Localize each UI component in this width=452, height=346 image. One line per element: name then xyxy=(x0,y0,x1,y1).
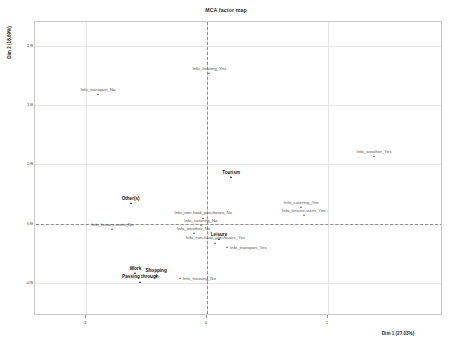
y-axis-tick-mark xyxy=(30,222,33,223)
data-point[interactable] xyxy=(97,93,99,95)
plot-panel: Info_heating_YesInfo_transport_NoInfo_we… xyxy=(34,21,442,315)
data-point-label: Info_weather_No xyxy=(177,226,210,231)
x-axis-tick-mark xyxy=(327,315,328,318)
y-axis-tick-mark xyxy=(30,281,33,282)
data-point[interactable] xyxy=(303,214,305,216)
data-point[interactable] xyxy=(214,242,216,244)
x-axis-tick-mark xyxy=(85,315,86,318)
data-point-label: Info_non-food_purchases_No xyxy=(174,210,232,215)
x-axis-label: Dim 1 (27.03%) xyxy=(352,331,444,336)
y-axis-tick-mark xyxy=(30,163,33,164)
data-point[interactable] xyxy=(230,176,232,178)
plot-area: Info_heating_YesInfo_transport_NoInfo_we… xyxy=(35,22,441,314)
data-point-label: Passing through xyxy=(122,274,159,279)
data-point-label: Info_heating_Yes xyxy=(192,66,226,71)
x-axis-tick-mark xyxy=(206,315,207,318)
y-axis-tick-mark xyxy=(30,44,33,45)
data-point-label: Info_leisure-visits_No xyxy=(91,222,133,227)
data-point-label: Info_transport_No xyxy=(80,87,115,92)
chart-title: MCA factor map xyxy=(0,7,452,13)
gridline-vertical xyxy=(328,22,329,314)
data-point[interactable] xyxy=(139,281,141,283)
data-point[interactable] xyxy=(179,277,181,279)
data-point-label: Info_non-food_purchases_Yes xyxy=(186,235,245,240)
x-axis-tick-label: 1 xyxy=(315,320,339,325)
gridline-horizontal xyxy=(35,105,441,106)
data-point-label: Work xyxy=(130,266,141,271)
data-point-label: Info_weather_Yes xyxy=(357,149,392,154)
gridline-horizontal xyxy=(35,164,441,165)
y-axis-tick-mark xyxy=(30,104,33,105)
data-point-label: Info_transport_Yes xyxy=(230,245,267,250)
data-point-label: Info_catering_Yes xyxy=(284,200,319,205)
data-point[interactable] xyxy=(130,202,132,204)
data-point-label: Tourism xyxy=(222,170,240,175)
x-axis-tick-label: 0 xyxy=(194,320,218,325)
data-point[interactable] xyxy=(208,72,210,74)
x-axis-tick-label: -1 xyxy=(73,320,97,325)
data-point[interactable] xyxy=(111,228,113,230)
data-point[interactable] xyxy=(373,155,375,157)
data-point-label: Shopping xyxy=(145,268,166,273)
mca-factor-map-figure: MCA factor map Dim 2 (16.69%) Dim 1 (27.… xyxy=(0,0,452,346)
data-point-label: Info_leisure-visits_Yes xyxy=(282,208,326,213)
data-point-label: Info_catering_No xyxy=(184,218,217,223)
data-point-label: Other(s) xyxy=(122,196,140,201)
gridline-horizontal xyxy=(35,46,441,47)
gridline-horizontal xyxy=(35,283,441,284)
data-point-label: Info_housing_No xyxy=(183,276,216,281)
data-point[interactable] xyxy=(193,232,195,234)
gridline-vertical xyxy=(86,22,87,314)
data-point[interactable] xyxy=(226,246,228,248)
